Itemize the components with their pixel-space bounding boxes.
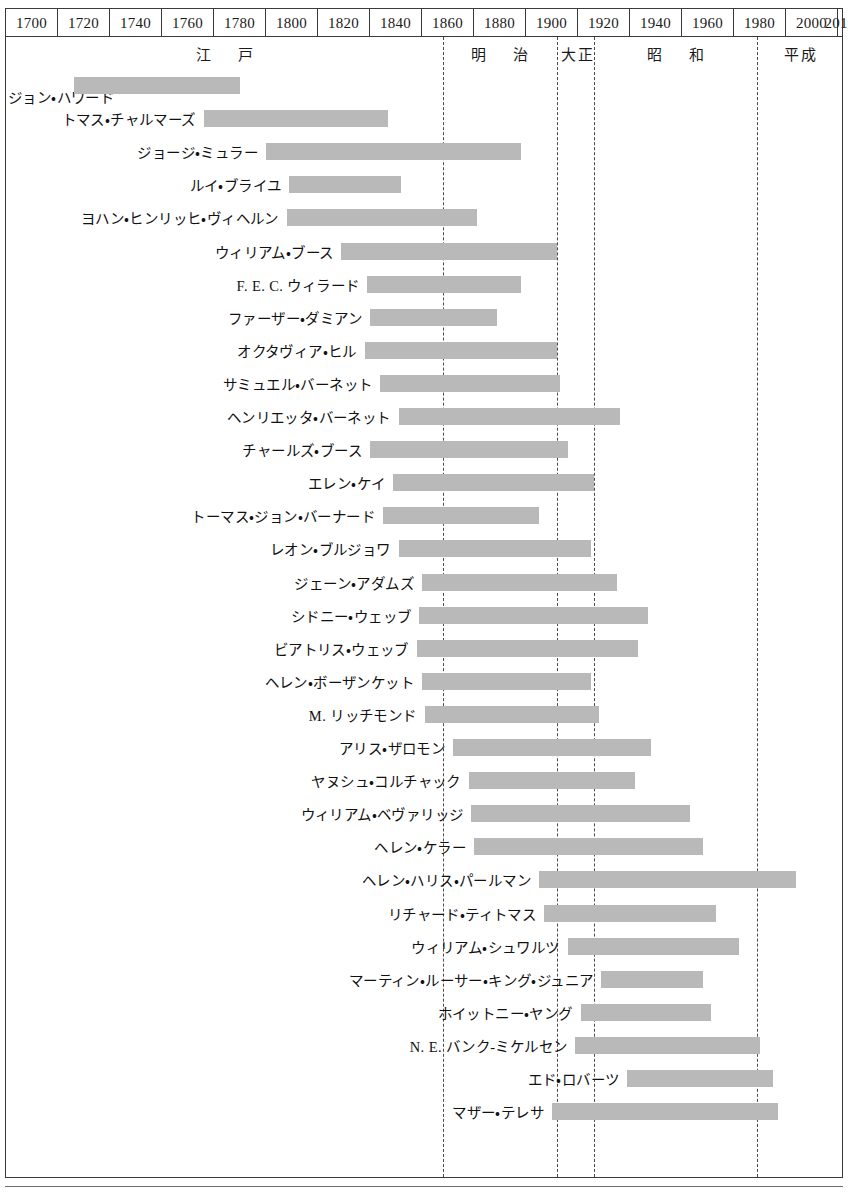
person-name-label: ジェーン・アダムズ <box>6 566 419 599</box>
timeline-row[interactable]: ルイ・ブライユ <box>6 168 842 201</box>
lifespan-bar[interactable] <box>417 640 638 657</box>
lifespan-bar[interactable] <box>552 1103 778 1120</box>
timeline-row[interactable]: F. E. C. ウィラード <box>6 268 842 301</box>
footer-rule <box>5 1186 843 1187</box>
era-label: 昭 和 <box>594 37 758 69</box>
timeline-row[interactable]: エド・ロバーツ <box>6 1062 842 1095</box>
timeline-row[interactable]: N. E. バンク-ミケルセン <box>6 1029 842 1062</box>
timeline-row[interactable]: アリス・ザロモン <box>6 731 842 764</box>
lifespan-bar[interactable] <box>74 77 240 94</box>
lifespan-bar[interactable] <box>266 143 521 160</box>
era-label: 平成 <box>757 37 838 69</box>
lifespan-bar[interactable] <box>422 673 591 690</box>
lifespan-bar[interactable] <box>601 971 702 988</box>
timeline-row[interactable]: ヘンリエッタ・バーネット <box>6 400 842 433</box>
person-name-label: F. E. C. ウィラード <box>6 268 364 301</box>
lifespan-bar[interactable] <box>399 408 620 425</box>
lifespan-bar[interactable] <box>367 276 520 293</box>
timeline-row[interactable]: マーティン・ルーサー・キング・ジュニア <box>6 963 842 996</box>
lifespan-bar[interactable] <box>204 110 389 127</box>
timeline-row[interactable]: ヘレン・ケラー <box>6 830 842 863</box>
timeline-row[interactable]: チャールズ・ブース <box>6 433 842 466</box>
timeline-row[interactable]: ウィリアム・シュワルツ <box>6 930 842 963</box>
timeline-row[interactable]: トマス・チャルマーズ <box>6 102 842 135</box>
era-label: 江 戸 <box>6 37 443 69</box>
timeline-row[interactable]: エレン・ケイ <box>6 466 842 499</box>
lifespan-bar[interactable] <box>341 243 557 260</box>
era-label: 大正 <box>557 37 593 69</box>
person-name-label: トマス・チャルマーズ <box>6 102 201 135</box>
lifespan-bar[interactable] <box>383 507 539 524</box>
timeline-row[interactable]: サミュエル・バーネット <box>6 367 842 400</box>
lifespan-bar[interactable] <box>399 540 591 557</box>
lifespan-bar[interactable] <box>471 805 689 822</box>
year-tick-1940: 1940 <box>630 9 682 37</box>
person-name-label: オクタヴィア・ヒル <box>6 334 362 367</box>
timeline-row[interactable]: ビアトリス・ウェッブ <box>6 632 842 665</box>
timeline-row[interactable]: オクタヴィア・ヒル <box>6 334 842 367</box>
person-name-label: ヘレン・ハリス・パールマン <box>6 863 536 896</box>
lifespan-bar[interactable] <box>287 209 477 226</box>
person-name-label: マザー・テレサ <box>6 1095 549 1128</box>
person-name-label: ホイットニー・ヤング <box>6 996 578 1029</box>
timeline-row[interactable]: ウィリアム・ベヴァリッジ <box>6 797 842 830</box>
year-tick-1700: 1700 <box>6 9 58 37</box>
lifespan-bar[interactable] <box>539 871 796 888</box>
lifespan-bar[interactable] <box>627 1070 773 1087</box>
year-tick-1720: 1720 <box>58 9 110 37</box>
year-tick-1740: 1740 <box>110 9 162 37</box>
lifespan-bar[interactable] <box>575 1037 760 1054</box>
person-name-label: ヘンリエッタ・バーネット <box>6 400 396 433</box>
year-tick-1800: 1800 <box>266 9 318 37</box>
lifespan-bar[interactable] <box>380 375 559 392</box>
lifespan-bar[interactable] <box>568 938 740 955</box>
timeline-row[interactable]: ホイットニー・ヤング <box>6 996 842 1029</box>
person-name-label: ルイ・ブライユ <box>6 168 286 201</box>
year-tick-1840: 1840 <box>370 9 422 37</box>
lifespan-bar[interactable] <box>365 342 557 359</box>
person-name-label: ウィリアム・ブース <box>6 235 338 268</box>
timeline-row[interactable]: ヘレン・ハリス・パールマン <box>6 863 842 896</box>
timeline-row[interactable]: マザー・テレサ <box>6 1095 842 1128</box>
person-name-label: ヤヌシュ・コルチャック <box>6 764 466 797</box>
timeline-row[interactable]: レオン・ブルジョワ <box>6 532 842 565</box>
year-tick-1880: 1880 <box>474 9 526 37</box>
lifespan-bar[interactable] <box>422 574 617 591</box>
lifespan-bar[interactable] <box>453 739 651 756</box>
year-tick-1980: 1980 <box>734 9 786 37</box>
timeline-row[interactable]: ジェーン・アダムズ <box>6 566 842 599</box>
person-name-label: N. E. バンク-ミケルセン <box>6 1029 572 1062</box>
person-name-label: レオン・ブルジョワ <box>6 532 396 565</box>
person-name-label: M. リッチモンド <box>6 698 422 731</box>
lifespan-bar[interactable] <box>544 905 716 922</box>
person-name-label: トーマス・ジョン・バーナード <box>6 499 380 532</box>
lifespan-bar[interactable] <box>419 607 648 624</box>
timeline-row[interactable]: ウィリアム・ブース <box>6 235 842 268</box>
person-name-label: エド・ロバーツ <box>6 1062 624 1095</box>
timeline-row[interactable]: ヨハン・ヒンリッヒ・ヴィヘルン <box>6 201 842 234</box>
timeline-row[interactable]: リチャード・ティトマス <box>6 897 842 930</box>
lifespan-bar[interactable] <box>425 706 599 723</box>
timeline-row[interactable]: M. リッチモンド <box>6 698 842 731</box>
year-tick-1900: 1900 <box>526 9 578 37</box>
year-tick-1760: 1760 <box>162 9 214 37</box>
timeline-row[interactable]: ジョージ・ミュラー <box>6 135 842 168</box>
lifespan-bar[interactable] <box>393 474 593 491</box>
timeline-row[interactable]: ジョン・ハワード <box>6 69 842 102</box>
lifespan-bar[interactable] <box>370 309 497 326</box>
timeline-row[interactable]: ヘレン・ボーザンケット <box>6 665 842 698</box>
person-name-label: アリス・ザロモン <box>6 731 450 764</box>
lifespan-bar[interactable] <box>581 1004 711 1021</box>
lifespan-bar[interactable] <box>469 772 635 789</box>
timeline-row[interactable]: トーマス・ジョン・バーナード <box>6 499 842 532</box>
timeline-row[interactable]: ヤヌシュ・コルチャック <box>6 764 842 797</box>
person-name-label: サミュエル・バーネット <box>6 367 377 400</box>
lifespan-bar[interactable] <box>370 441 568 458</box>
lifespan-bar[interactable] <box>289 176 401 193</box>
lifespan-bar[interactable] <box>474 838 703 855</box>
person-name-label: ビアトリス・ウェッブ <box>6 632 414 665</box>
era-band: 江 戸明 治大正昭 和平成 <box>6 37 842 69</box>
timeline-row[interactable]: シドニー・ウェッブ <box>6 599 842 632</box>
year-tick-1960: 1960 <box>682 9 734 37</box>
timeline-row[interactable]: ファーザー・ダミアン <box>6 301 842 334</box>
